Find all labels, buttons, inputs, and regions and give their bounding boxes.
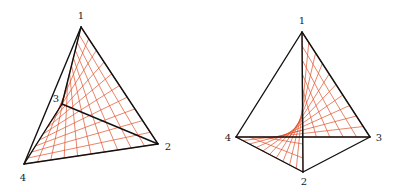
vertex-label-4: 4	[20, 173, 26, 183]
edge-1-2	[81, 27, 158, 144]
vertex-label-2: 2	[165, 142, 171, 152]
vertex-label-4: 4	[225, 133, 231, 143]
edges	[24, 27, 158, 164]
vertex-label-1: 1	[78, 11, 84, 21]
edge-3-2	[62, 104, 158, 144]
edge-2-4	[24, 144, 158, 164]
vertex-label-2: 2	[301, 177, 307, 187]
tetrahedra-diagram	[0, 0, 402, 192]
edge-2-3	[303, 137, 370, 172]
tetrahedron-left	[24, 27, 158, 164]
ruling-line	[263, 137, 303, 144]
edge-1-4	[236, 32, 302, 137]
vertex-label-3: 3	[376, 133, 382, 143]
vertex-label-3: 3	[53, 94, 59, 104]
ruling-lines	[24, 27, 158, 164]
edge-1-2	[302, 32, 303, 172]
edges	[236, 32, 370, 172]
vertex-label-1: 1	[299, 16, 305, 26]
tetrahedron-right	[236, 32, 370, 172]
